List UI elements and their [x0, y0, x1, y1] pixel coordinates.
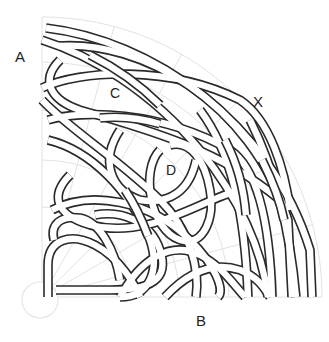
label-a: A — [15, 49, 25, 64]
label-b: B — [196, 313, 206, 328]
label-c: C — [110, 86, 120, 100]
knot-diagram — [0, 0, 329, 342]
label-d: D — [166, 163, 176, 177]
label-x: X — [253, 94, 263, 109]
